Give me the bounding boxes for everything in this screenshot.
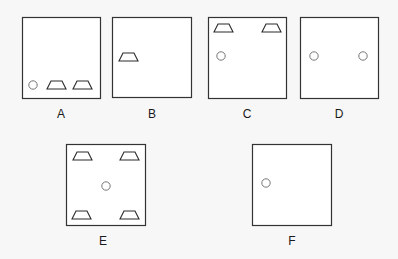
panel-label: A xyxy=(57,108,65,120)
panel-label: E xyxy=(99,235,107,247)
panel-f xyxy=(253,145,332,226)
panel-box xyxy=(209,18,287,99)
panel-e xyxy=(67,145,146,226)
panel-box xyxy=(67,145,146,226)
panel-d xyxy=(301,18,379,99)
panel-c xyxy=(209,18,287,99)
panel-label: F xyxy=(288,235,295,247)
panel-box xyxy=(113,18,192,98)
panel-label: B xyxy=(148,108,156,120)
panel-diagram xyxy=(0,0,398,259)
panel-label: D xyxy=(335,108,344,120)
panel-box xyxy=(253,145,332,226)
panel-b xyxy=(113,18,192,98)
panel-label: C xyxy=(243,108,252,120)
panel-a xyxy=(23,18,101,99)
panel-box xyxy=(23,18,101,99)
